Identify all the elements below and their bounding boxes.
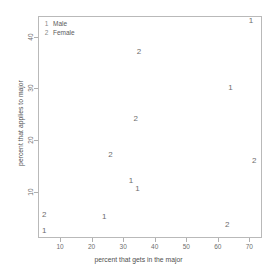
legend-item-male: 1Male	[44, 19, 75, 27]
data-point-male: 1	[129, 177, 133, 185]
data-point-female: 2	[108, 151, 112, 159]
y-axis-tick-label: 40	[27, 32, 34, 41]
data-point-male: 1	[135, 185, 139, 193]
x-axis-tick	[249, 238, 250, 242]
data-point-male: 1	[228, 84, 232, 92]
x-axis-tick-label: 20	[88, 243, 95, 250]
y-axis-label: percent that applies to major	[17, 58, 25, 188]
data-point-female: 2	[134, 115, 138, 123]
legend-label: Female	[53, 29, 75, 36]
x-axis-tick	[218, 238, 219, 242]
x-axis-tick-label: 50	[183, 243, 190, 250]
x-axis-tick-label: 70	[246, 243, 253, 250]
y-axis-tick	[34, 88, 38, 89]
scatter-plot-figure: 111111222222 1Male2Female 10203040506070…	[0, 0, 277, 279]
x-axis-tick-label: 60	[214, 243, 221, 250]
data-points-layer: 111111222222	[38, 16, 262, 238]
x-axis-tick	[92, 238, 93, 242]
legend-marker-icon: 2	[44, 29, 49, 36]
x-axis-tick-label: 40	[151, 243, 158, 250]
legend: 1Male2Female	[44, 19, 75, 36]
x-axis-tick	[123, 238, 124, 242]
legend-label: Male	[53, 20, 67, 27]
x-axis-tick-label: 30	[120, 243, 127, 250]
y-axis-tick-label: 10	[27, 187, 34, 196]
data-point-female: 2	[252, 157, 256, 165]
data-point-male: 1	[42, 227, 46, 235]
data-point-female: 2	[42, 211, 46, 219]
x-axis-tick	[186, 238, 187, 242]
y-axis-tick-label: 30	[27, 84, 34, 93]
data-point-female: 2	[137, 48, 141, 56]
x-axis-label: percent that gets in the major	[0, 256, 277, 264]
y-axis-tick	[34, 140, 38, 141]
data-point-male: 1	[102, 213, 106, 221]
y-axis-tick	[34, 37, 38, 38]
x-axis-tick	[60, 238, 61, 242]
y-axis-tick	[34, 192, 38, 193]
data-point-female: 2	[225, 221, 229, 229]
y-axis-tick-label: 20	[27, 135, 34, 144]
legend-marker-icon: 1	[44, 20, 49, 27]
data-point-male: 1	[249, 17, 253, 25]
legend-item-female: 2Female	[44, 28, 75, 36]
x-axis-tick	[155, 238, 156, 242]
x-axis-tick-label: 10	[56, 243, 63, 250]
